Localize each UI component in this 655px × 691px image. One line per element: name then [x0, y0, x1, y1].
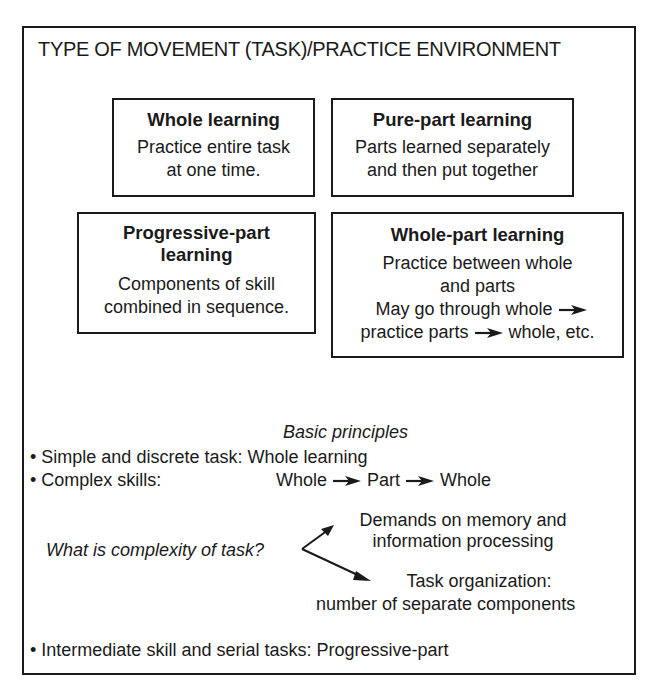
flow-text: practice parts	[360, 322, 468, 342]
branch-line: number of separate components	[316, 594, 575, 615]
principle-item-1: • Simple and discrete task: Whole learni…	[30, 447, 368, 468]
bullet: •	[30, 447, 36, 467]
arrow-right-icon	[405, 475, 435, 487]
box-pure-part-learning: Pure-part learning Parts learned separat…	[331, 98, 574, 197]
principle-item-3: • Intermediate skill and serial tasks: P…	[30, 640, 449, 661]
box-line: Practice entire task	[114, 136, 313, 159]
branch-memory: Demands on memory and information proces…	[344, 510, 582, 552]
principle-value: Whole learning	[247, 447, 367, 467]
box-line: Practice between whole	[333, 252, 622, 275]
box-heading: Whole learning	[114, 109, 313, 131]
complex-skills-flow: Whole Part Whole	[276, 470, 491, 491]
box-line: and parts	[333, 275, 622, 298]
box-line: Parts learned separately	[333, 136, 572, 159]
principle-label: Simple and discrete task:	[41, 447, 242, 467]
principle-item-2: • Complex skills:	[30, 470, 161, 491]
flow-line-2: practice parts whole, etc.	[333, 321, 622, 344]
box-heading: Pure-part learning	[333, 109, 572, 131]
flow-line-1: May go through whole	[333, 298, 622, 321]
flow-step: Whole	[276, 470, 327, 490]
diagram-title: TYPE OF MOVEMENT (TASK)/PRACTICE ENVIRON…	[38, 38, 561, 61]
arrow-right-icon	[558, 304, 588, 316]
branch-organization: Task organization:	[356, 570, 588, 592]
box-heading: Whole-part learning	[333, 224, 622, 246]
box-line: and then put together	[333, 159, 572, 182]
flow-step: Whole	[440, 470, 491, 490]
branch-line: Demands on memory and	[344, 510, 582, 531]
box-line: combined in sequence.	[79, 296, 314, 319]
flow-text: May go through whole	[375, 299, 552, 319]
bullet: •	[30, 640, 36, 660]
box-line: at one time.	[114, 159, 313, 182]
principles-heading: Basic principles	[283, 422, 408, 443]
box-heading: Progressive-part	[79, 222, 314, 244]
box-line: Components of skill	[79, 273, 314, 296]
principle-label: Complex skills:	[41, 470, 161, 490]
arrow-right-icon	[474, 327, 504, 339]
principle-text: Intermediate skill and serial tasks: Pro…	[41, 640, 448, 660]
flow-text: whole, etc.	[509, 322, 595, 342]
bullet: •	[30, 470, 36, 490]
branch-line: information processing	[344, 531, 582, 552]
box-progressive-part-learning: Progressive-part learning Components of …	[77, 212, 316, 334]
branch-line: Task organization:	[356, 570, 588, 592]
complexity-question: What is complexity of task?	[46, 540, 264, 561]
flow-step: Part	[367, 470, 400, 490]
box-whole-part-learning: Whole-part learning Practice between who…	[331, 212, 624, 358]
arrow-right-icon	[332, 475, 362, 487]
box-heading: learning	[79, 244, 314, 266]
box-whole-learning: Whole learning Practice entire task at o…	[112, 98, 315, 197]
